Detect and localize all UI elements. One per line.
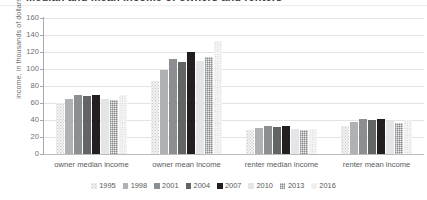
bar-group: [246, 18, 317, 154]
legend-item-2010[interactable]: 2010: [248, 182, 272, 190]
legend-swatch-icon: [248, 183, 254, 189]
y-tick-label-160: 160: [9, 14, 39, 22]
gridline-0: [44, 154, 424, 155]
bar-group: [56, 18, 127, 154]
bar-1995: [341, 126, 349, 154]
bar-2007: [187, 52, 195, 154]
bar-2013: [205, 57, 213, 154]
chart-figure: Median and mean income of owners and ren…: [0, 0, 427, 200]
bar-2013: [300, 130, 308, 154]
plot-area: [44, 18, 424, 154]
legend-swatch-icon: [91, 183, 97, 189]
bar-2004: [178, 62, 186, 154]
bar-2016: [309, 129, 317, 155]
bar-2004: [273, 127, 281, 154]
figure-title: Median and mean income of owners and ren…: [26, 0, 282, 3]
bar-2016: [214, 41, 222, 154]
chart-legend: 19951998200120042007201020132016: [0, 182, 427, 190]
bar-1998: [350, 122, 358, 154]
bar-group: [151, 18, 222, 154]
x-axis-label: renter mean income: [329, 160, 424, 169]
y-tick-label-120: 120: [9, 48, 39, 56]
bar-cluster: [341, 18, 412, 154]
bar-2010: [386, 121, 394, 154]
legend-item-2013[interactable]: 2013: [280, 182, 304, 190]
y-tick-label-60: 60: [9, 99, 39, 107]
legend-swatch-icon: [123, 183, 129, 189]
y-tick-label-0: 0: [9, 150, 39, 158]
bar-cluster: [246, 18, 317, 154]
bar-2001: [169, 59, 177, 154]
y-tick-label-20: 20: [9, 133, 39, 141]
bar-2016: [404, 120, 412, 154]
bar-1995: [246, 130, 254, 154]
bar-2013: [395, 123, 403, 154]
legend-label: 1995: [99, 182, 115, 190]
bar-2007: [377, 119, 385, 154]
bar-2007: [282, 126, 290, 154]
bar-cluster: [151, 18, 222, 154]
bar-2004: [368, 120, 376, 154]
legend-label: 2013: [288, 182, 304, 190]
bar-group: [341, 18, 412, 154]
y-tick-label-40: 40: [9, 116, 39, 124]
bar-1998: [65, 99, 73, 154]
y-tick-label-100: 100: [9, 65, 39, 73]
legend-item-2001[interactable]: 2001: [154, 182, 178, 190]
legend-swatch-icon: [154, 183, 160, 189]
y-tick-label-140: 140: [9, 31, 39, 39]
legend-item-2007[interactable]: 2007: [217, 182, 241, 190]
legend-item-2016[interactable]: 2016: [311, 182, 335, 190]
bar-2013: [110, 100, 118, 154]
bar-2001: [359, 119, 367, 154]
bar-2016: [119, 95, 127, 154]
legend-label: 2004: [194, 182, 210, 190]
bar-2001: [74, 95, 82, 154]
legend-swatch-icon: [186, 183, 192, 189]
bar-1998: [255, 128, 263, 154]
legend-item-1995[interactable]: 1995: [91, 182, 115, 190]
y-tick-label-80: 80: [9, 82, 39, 90]
bar-1998: [160, 70, 168, 154]
legend-label: 1998: [131, 182, 147, 190]
x-axis-label: owner mean income: [139, 160, 234, 169]
x-axis-label: renter median income: [234, 160, 329, 169]
legend-item-2004[interactable]: 2004: [186, 182, 210, 190]
legend-label: 2010: [256, 182, 272, 190]
bar-2010: [291, 129, 299, 155]
legend-swatch-icon: [311, 183, 317, 189]
legend-swatch-icon: [217, 183, 223, 189]
legend-item-1998[interactable]: 1998: [123, 182, 147, 190]
bar-1995: [56, 103, 64, 154]
bar-2010: [196, 61, 204, 155]
figure-top-rule: [0, 5, 427, 6]
bar-2010: [101, 99, 109, 154]
bar-2004: [83, 96, 91, 154]
bar-cluster: [56, 18, 127, 154]
bar-1995: [151, 81, 159, 154]
bar-2007: [92, 95, 100, 155]
legend-swatch-icon: [280, 183, 286, 189]
bar-2001: [264, 126, 272, 154]
x-axis-label: owner median income: [44, 160, 139, 169]
legend-label: 2007: [225, 182, 241, 190]
legend-label: 2016: [319, 182, 335, 190]
legend-label: 2001: [162, 182, 178, 190]
